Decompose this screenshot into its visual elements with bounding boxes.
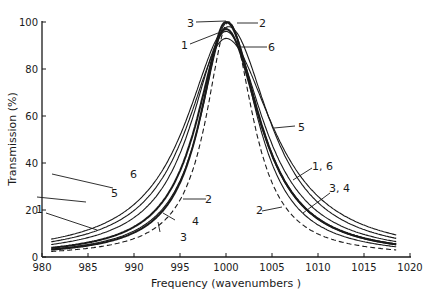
curve-2 <box>51 22 396 249</box>
label-curve-4: 4 <box>192 215 199 228</box>
label-curve-5-right: 5 <box>298 121 305 134</box>
label-curve-1: 1 <box>36 203 43 216</box>
curve-1 <box>51 31 396 244</box>
curve-dashed <box>51 22 396 251</box>
y-axis-label: Transmission (%) <box>6 92 19 187</box>
x-axis-label: Frequency (wavenumbers ) <box>151 277 301 290</box>
label-curve-2-right: 2 <box>256 204 263 217</box>
x-tick-label: 980 <box>32 262 51 273</box>
y-tick-label: 40 <box>25 158 38 169</box>
x-tick-label: 1015 <box>351 262 376 273</box>
x-tick-label: 985 <box>78 262 97 273</box>
label-curve-6-peak: 6 <box>268 41 275 54</box>
x-tick-label: 1005 <box>259 262 284 273</box>
curve-6 <box>51 27 396 239</box>
y-tick-label: 80 <box>25 64 38 75</box>
curves <box>51 22 396 252</box>
transmission-chart: 020406080100 980985990995100010051010101… <box>0 0 436 299</box>
y-tick-label: 100 <box>19 17 38 28</box>
label-curves-1-6: 1, 6 <box>312 160 333 173</box>
x-ticks: 98098599099510001005101010151020 <box>32 253 422 273</box>
x-tick-label: 990 <box>124 262 143 273</box>
label-curve-6: 6 <box>130 168 137 181</box>
x-tick-label: 1000 <box>213 262 238 273</box>
label-curve-2: 2 <box>205 193 212 206</box>
label-curve-1-peak: 1 <box>181 39 188 52</box>
x-tick-label: 1010 <box>305 262 330 273</box>
x-tick-label: 1020 <box>397 262 422 273</box>
label-curve-2-peak: 2 <box>259 17 266 30</box>
label-curve-5: 5 <box>111 187 118 200</box>
label-curves-3-4: 3, 4 <box>329 182 350 195</box>
label-curve-3: 3 <box>180 231 187 244</box>
y-tick-label: 60 <box>25 111 38 122</box>
label-curve-3-peak: 3 <box>187 17 194 30</box>
x-tick-label: 995 <box>170 262 189 273</box>
curve-5 <box>51 38 396 241</box>
curve-4 <box>51 29 396 248</box>
